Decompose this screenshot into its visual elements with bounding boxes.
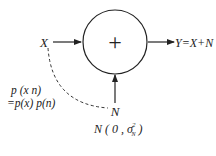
joint-pdf-line2: =p(x) p(n): [7, 97, 55, 110]
input-x-label: X: [39, 35, 49, 50]
noise-dist-prefix: N ( 0 , σ: [93, 122, 134, 136]
adder-plus-symbol: +: [108, 29, 122, 55]
noise-channel-diagram: + X Y=X+N N p (x n) =p(x) p(n) N ( 0 , σ…: [0, 0, 216, 156]
independence-dashed-curve: [48, 48, 108, 108]
output-y-label: Y=X+N: [175, 36, 214, 50]
noise-n-label: N: [110, 104, 121, 119]
noise-distribution-label: N ( 0 , σ2N ): [93, 121, 142, 137]
joint-pdf-line1: p (x n): [10, 84, 41, 97]
noise-dist-suffix: ): [135, 122, 142, 136]
